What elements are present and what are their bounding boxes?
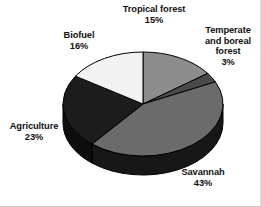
slice-label-temperate-boreal-forest-line2: and boreal <box>196 36 260 47</box>
pie-slices-group <box>63 52 223 175</box>
slice-label-savannah: Savannah 43% <box>168 167 238 188</box>
slice-label-temperate-boreal-forest-line3: forest <box>196 46 260 57</box>
slice-label-agriculture-value: 23% <box>1 132 67 143</box>
slice-label-tropical-forest-name: Tropical forest <box>112 4 196 15</box>
slice-label-savannah-value: 43% <box>168 178 238 189</box>
slice-label-agriculture: Agriculture 23% <box>1 121 67 142</box>
slice-label-temperate-boreal-forest: Temperate and boreal forest 3% <box>196 25 260 67</box>
pie-chart-figure: Tropical forest 15% Temperate and boreal… <box>0 0 261 207</box>
slice-label-tropical-forest-value: 15% <box>112 15 196 26</box>
slice-label-biofuel: Biofuel 16% <box>45 30 113 51</box>
slice-label-temperate-boreal-forest-value: 3% <box>196 57 260 68</box>
slice-label-biofuel-value: 16% <box>45 41 113 52</box>
slice-label-agriculture-name: Agriculture <box>1 121 67 132</box>
slice-label-biofuel-name: Biofuel <box>45 30 113 41</box>
slice-label-temperate-boreal-forest-line1: Temperate <box>196 25 260 36</box>
slice-label-tropical-forest: Tropical forest 15% <box>112 4 196 25</box>
slice-label-savannah-name: Savannah <box>168 167 238 178</box>
